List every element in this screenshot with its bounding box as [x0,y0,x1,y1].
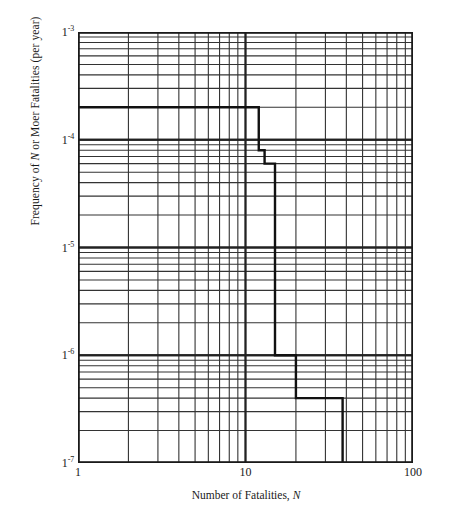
x-tick-label: 100 [383,466,443,478]
plot-area [78,32,413,463]
x-tick-label: 1 [48,466,108,478]
y-tick-exponent: -6 [68,347,74,356]
x-tick-label: 10 [216,466,276,478]
y-tick-label: 1-3 [40,25,74,38]
y-axis-tick-labels: 1-31-41-51-61-7 [34,0,74,512]
y-tick-label: 1-5 [40,241,74,254]
x-axis-title: Number of Fatalities, N [78,489,414,501]
x-axis-title-variable: N [293,489,301,501]
y-tick-label: 1-4 [40,133,74,146]
fn-curve-figure: Frequency of N or Moer Fatalities (per y… [0,0,456,512]
y-tick-label: 1-6 [40,348,74,361]
x-axis-title-prefix: Number of Fatalities, [192,489,293,501]
y-tick-exponent: -4 [68,132,74,141]
y-tick-exponent: -5 [68,240,74,249]
y-tick-exponent: -3 [68,24,74,33]
y-tick-exponent: -7 [68,455,74,464]
chart-canvas [78,32,413,463]
fn-step-curve [78,107,343,463]
